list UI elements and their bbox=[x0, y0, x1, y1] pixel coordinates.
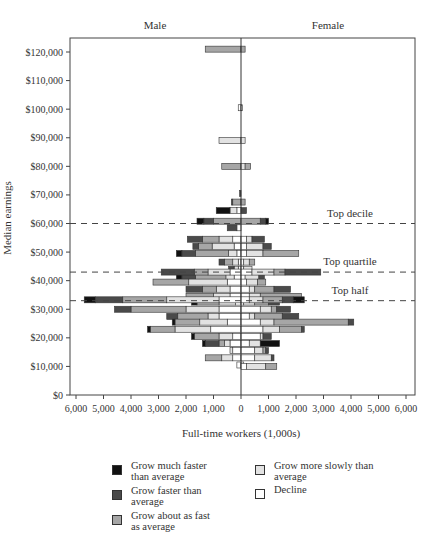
bar-segment-male bbox=[233, 199, 241, 205]
bar-segment-male bbox=[203, 341, 206, 347]
bar-segment-male bbox=[167, 313, 178, 319]
bar-segment-male bbox=[203, 286, 217, 292]
legend-swatch-much-faster bbox=[112, 465, 122, 475]
bar-segment-male bbox=[178, 313, 208, 319]
bar-segment-female bbox=[241, 199, 245, 205]
bar-segment-male bbox=[233, 236, 241, 242]
bar-segment-female bbox=[263, 333, 271, 339]
reference-label: Top quartile bbox=[323, 255, 376, 267]
legend-label: Grow about as fast as average bbox=[131, 510, 221, 532]
bar-segment-male bbox=[222, 163, 241, 169]
bar-segment-male bbox=[153, 279, 189, 285]
y-tick-label: $0 bbox=[53, 390, 63, 401]
bar-segment-male bbox=[230, 348, 233, 354]
bar-segment-male bbox=[205, 46, 241, 52]
bar-segment-female bbox=[260, 306, 271, 312]
bar-segment-female bbox=[241, 286, 249, 292]
bar-segment-male bbox=[219, 138, 241, 144]
panel-label-male: Male bbox=[144, 19, 167, 31]
bar-segment-female bbox=[249, 259, 255, 265]
bar-segment-female bbox=[271, 306, 277, 312]
bar-segment-female bbox=[260, 333, 263, 339]
bar-segment-female bbox=[260, 319, 274, 325]
bar-segment-male bbox=[172, 319, 175, 325]
reference-label: Top decile bbox=[327, 207, 373, 219]
bar-segment-female bbox=[247, 363, 266, 369]
bar-segment-male bbox=[230, 341, 241, 347]
x-tick-label: 4,000 bbox=[340, 403, 363, 414]
bar-segment-female bbox=[241, 208, 247, 214]
bar-segment-male bbox=[176, 251, 182, 257]
bar-segment-male bbox=[198, 243, 212, 249]
y-tick-label: $110,000 bbox=[26, 75, 63, 86]
bar-segment-female bbox=[244, 259, 250, 265]
bar-segment-male bbox=[234, 243, 241, 249]
x-tick-label: 2,000 bbox=[175, 403, 198, 414]
bar-segment-male bbox=[219, 297, 241, 303]
bar-segment-female bbox=[282, 313, 299, 319]
bar-segment-male bbox=[131, 306, 186, 312]
bar-segment-male bbox=[219, 236, 233, 242]
bar-segment-male bbox=[95, 297, 123, 303]
bar-segment-female bbox=[302, 326, 305, 332]
bar-segment-female bbox=[280, 326, 302, 332]
bar-segment-male bbox=[192, 333, 195, 339]
bar-segment-female bbox=[249, 286, 255, 292]
legend: Grow much faster than average Grow faste… bbox=[0, 456, 438, 541]
y-tick-label: $20,000 bbox=[31, 332, 64, 343]
bar-segment-male bbox=[150, 326, 175, 332]
bar-segment-male bbox=[208, 313, 219, 319]
bar-segment-male bbox=[222, 355, 233, 361]
bar-segment-female bbox=[263, 326, 280, 332]
bar-segment-female bbox=[249, 297, 263, 303]
bar-segment-male bbox=[219, 259, 225, 265]
bar-segment-female bbox=[241, 163, 245, 169]
bar-segment-female bbox=[249, 341, 260, 347]
bar-segment-male bbox=[227, 279, 241, 285]
y-tick-label: $40,000 bbox=[31, 275, 64, 286]
butterfly-chart: Top decileTop quartileTop half$0$10,000$… bbox=[0, 0, 438, 456]
bar-segment-female bbox=[241, 319, 260, 325]
bar-segment-female bbox=[274, 286, 291, 292]
bar-segment-male bbox=[225, 341, 231, 347]
legend-item-decline: Decline bbox=[255, 484, 364, 499]
bar-segment-male bbox=[227, 319, 241, 325]
bar-segment-female bbox=[266, 363, 277, 369]
bar-segment-male bbox=[219, 313, 241, 319]
bar-segment-female bbox=[274, 319, 348, 325]
x-tick-label: 0 bbox=[239, 403, 244, 414]
bar-segment-male bbox=[212, 243, 234, 249]
bar-segment-male bbox=[205, 355, 222, 361]
bar-segment-male bbox=[211, 326, 241, 332]
bar-segment-male bbox=[230, 286, 241, 292]
bar-segment-female bbox=[255, 348, 263, 354]
bar-segment-female bbox=[241, 348, 255, 354]
bar-segment-female bbox=[255, 286, 274, 292]
panel-label-female: Female bbox=[312, 19, 344, 31]
bar-segment-male bbox=[231, 199, 232, 205]
bar-segment-female bbox=[241, 279, 247, 285]
x-tick-label: 4,000 bbox=[120, 403, 143, 414]
bar-segment-male bbox=[237, 208, 241, 214]
y-tick-label: $30,000 bbox=[31, 304, 64, 315]
y-tick-label: $100,000 bbox=[26, 104, 64, 115]
bar-segment-female bbox=[263, 251, 299, 257]
x-axis-label: Full-time workers (1,000s) bbox=[182, 427, 301, 440]
legend-swatch-faster bbox=[112, 490, 122, 500]
bar-segment-female bbox=[241, 306, 260, 312]
bar-segment-male bbox=[237, 225, 241, 231]
bar-segment-female bbox=[241, 313, 249, 319]
y-tick-label: $50,000 bbox=[31, 247, 64, 258]
legend-swatch-decline bbox=[255, 489, 265, 499]
reference-label: Top half bbox=[332, 284, 369, 296]
y-tick-label: $10,000 bbox=[31, 361, 64, 372]
bar-segment-male bbox=[219, 341, 225, 347]
legend-swatch-about-avg bbox=[112, 515, 122, 525]
x-tick-label: 3,000 bbox=[147, 403, 170, 414]
bar-segment-male bbox=[219, 333, 233, 339]
bar-segment-female bbox=[241, 355, 255, 361]
bar-segment-female bbox=[247, 251, 264, 257]
bar-segment-female bbox=[263, 348, 266, 354]
bar-segment-female bbox=[241, 46, 245, 52]
legend-item-much-faster: Grow much faster than average bbox=[112, 460, 221, 482]
